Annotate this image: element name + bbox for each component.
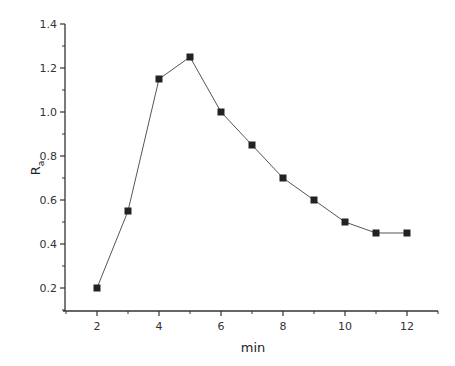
x-axis: 24681012 xyxy=(63,311,438,333)
data-point-marker xyxy=(187,54,194,61)
data-point-marker xyxy=(311,197,318,204)
data-point-marker xyxy=(280,175,287,182)
data-point-marker xyxy=(218,109,225,116)
x-tick-label: 2 xyxy=(94,320,101,333)
x-tick-label: 8 xyxy=(280,320,287,333)
x-tick-label: 6 xyxy=(218,320,225,333)
line-chart: 0.20.40.60.81.01.21.4 24681012 min Ra xyxy=(0,0,455,366)
series-line xyxy=(97,57,407,288)
y-tick-label: 1.2 xyxy=(40,62,58,75)
data-point-marker xyxy=(404,230,411,237)
data-point-marker xyxy=(249,142,256,149)
data-line xyxy=(97,57,407,288)
series-markers xyxy=(94,54,411,292)
y-tick-label: 1.0 xyxy=(40,106,58,119)
y-tick-label: 0.2 xyxy=(40,282,58,295)
data-point-marker xyxy=(125,208,132,215)
data-point-marker xyxy=(94,285,101,292)
y-tick-label: 1.4 xyxy=(40,18,58,31)
y-axis-label: Ra xyxy=(28,161,46,176)
data-point-marker xyxy=(156,76,163,83)
data-point-marker xyxy=(342,219,349,226)
data-point-marker xyxy=(373,230,380,237)
y-axis-label-main: R xyxy=(28,166,43,175)
x-tick-label: 12 xyxy=(400,320,414,333)
x-tick-label: 4 xyxy=(156,320,163,333)
x-axis-label: min xyxy=(241,340,266,355)
x-tick-label: 10 xyxy=(338,320,352,333)
y-tick-label: 0.4 xyxy=(40,238,58,251)
y-tick-label: 0.6 xyxy=(40,194,58,207)
y-axis-label-subscript: a xyxy=(36,161,46,167)
